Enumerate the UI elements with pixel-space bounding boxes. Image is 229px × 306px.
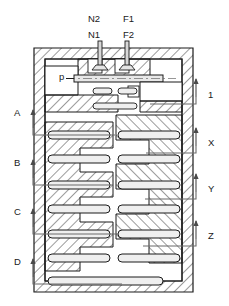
label-d: D [14, 257, 21, 267]
patent-figure: N2 F1 N1 F2 p A B C D 1 X Y Z [0, 0, 229, 306]
label-p: p [59, 72, 64, 82]
label-b: B [14, 158, 20, 168]
label-z: Z [208, 231, 214, 241]
figure-drawing [0, 0, 229, 306]
label-c: C [14, 207, 21, 217]
label-x: X [208, 138, 214, 148]
label-f2: F2 [123, 30, 134, 40]
label-n2: N2 [88, 14, 100, 24]
label-n1: N1 [88, 30, 100, 40]
label-1: 1 [208, 90, 213, 100]
label-y: Y [208, 184, 214, 194]
label-a: A [14, 108, 20, 118]
label-f1: F1 [123, 14, 134, 24]
center-shaft [66, 75, 176, 82]
